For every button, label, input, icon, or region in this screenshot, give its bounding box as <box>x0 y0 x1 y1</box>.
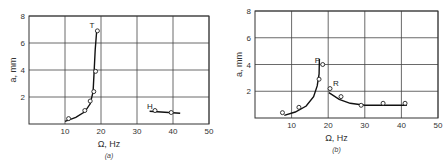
x-tick-label: 10 <box>61 127 70 136</box>
panel-caption: (a) <box>105 152 114 160</box>
x-tick-label: 50 <box>434 121 443 130</box>
x-tick-label: 30 <box>360 121 369 130</box>
y-tick-label: 2 <box>21 93 26 102</box>
x-axis-label: Ω, Hz <box>98 139 121 149</box>
y-tick-label: 6 <box>247 34 252 43</box>
figure: 10203040502468Ω, Hza, mm(a)TH10203040502… <box>0 0 448 162</box>
y-tick-label: 8 <box>21 12 26 21</box>
data-point <box>95 29 99 33</box>
x-tick-label: 30 <box>133 127 142 136</box>
y-tick-label: 2 <box>247 87 252 96</box>
data-point <box>328 87 332 91</box>
y-tick-label: 8 <box>247 7 252 16</box>
data-point <box>381 101 385 105</box>
data-point <box>94 69 98 73</box>
x-tick-label: 50 <box>205 127 214 136</box>
y-tick-label: 4 <box>21 66 26 75</box>
y-axis-label: a, mm <box>234 52 244 77</box>
chart-a: 10203040502468Ω, Hza, mm(a)TH <box>8 12 214 160</box>
y-tick-label: 4 <box>247 61 252 70</box>
x-tick-label: 20 <box>97 127 106 136</box>
x-tick-label: 10 <box>287 121 296 130</box>
data-point <box>88 99 92 103</box>
data-point <box>83 109 87 113</box>
branch-annotation: T <box>89 21 94 30</box>
data-point <box>280 111 284 115</box>
x-axis-label: Ω, Hz <box>325 133 348 143</box>
data-point <box>297 105 301 109</box>
x-tick-label: 40 <box>169 127 178 136</box>
data-point <box>317 77 321 81</box>
panel-caption: (b) <box>332 146 341 154</box>
fit-curve <box>284 59 319 115</box>
data-point <box>321 63 325 67</box>
data-point <box>339 95 343 99</box>
data-point <box>359 103 363 107</box>
data-point <box>169 111 173 115</box>
data-point <box>92 90 96 94</box>
branch-annotation: R <box>333 79 339 88</box>
fit-curve <box>65 31 97 122</box>
branch-annotation: P <box>315 56 320 65</box>
y-axis-label: a, mm <box>8 57 18 82</box>
branch-annotation: H <box>147 102 153 111</box>
chart-b: 10203040502468Ω, Hza, mm(b)PR <box>234 7 443 154</box>
x-tick-label: 20 <box>324 121 333 130</box>
data-point <box>153 109 157 113</box>
x-tick-label: 40 <box>397 121 406 130</box>
data-point <box>67 117 71 121</box>
y-tick-label: 6 <box>21 39 26 48</box>
data-point <box>403 101 407 105</box>
